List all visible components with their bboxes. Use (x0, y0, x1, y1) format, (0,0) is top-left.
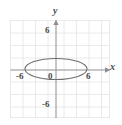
coordinate-plane-figure: y x 6 -6 -6 6 0 (0, 0, 122, 125)
y-tick-label-6: 6 (45, 26, 50, 35)
x-tick-label-6: 6 (86, 72, 91, 81)
y-tick-label-neg6: -6 (42, 100, 50, 109)
y-axis (53, 20, 58, 119)
x-axis-label: x (110, 62, 115, 72)
x-tick-label-neg6: -6 (16, 72, 24, 81)
origin-label: 0 (48, 72, 53, 81)
y-axis-label: y (53, 6, 57, 16)
plot-canvas (0, 0, 122, 125)
